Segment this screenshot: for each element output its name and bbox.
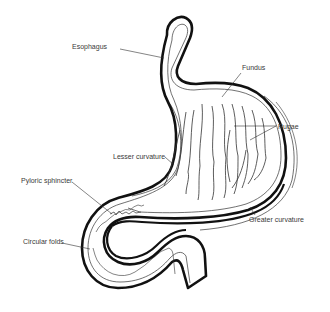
pyloric-sphincter-leader [72,182,112,214]
esophagus-leader [120,49,164,58]
label-lesser-curvature: Lesser curvature [113,153,165,160]
circular-folds-leader [62,243,90,249]
rugae-leader-2 [250,126,276,140]
label-circular-folds: Circular folds [23,238,64,245]
stomach-diagram: Esophagus Fundus Rugae Lesser curvature … [0,0,330,312]
label-esophagus: Esophagus [72,43,107,50]
label-greater-curvature: Greater curvature [249,216,304,223]
label-fundus: Fundus [242,64,265,71]
label-rugae: Rugae [278,123,299,130]
label-pyloric-sphincter: Pyloric sphincter [21,177,72,184]
duodenum-inner-wall [107,226,186,258]
